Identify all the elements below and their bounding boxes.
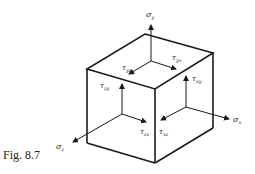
tau-yx-arrow <box>151 61 176 69</box>
tau-yz-arrow <box>129 61 151 74</box>
label-sigma-x: σx <box>233 115 241 125</box>
label-tau-xy: τxy <box>192 75 202 85</box>
tau-xz-arrow <box>161 107 186 120</box>
label-sigma-y: σy <box>146 10 154 21</box>
sigma-z-arrow <box>73 114 122 142</box>
label-tau-zy: τzy <box>100 82 110 92</box>
sigma-x-arrow <box>186 107 229 119</box>
label-sigma-z: σz <box>56 142 64 152</box>
figure-caption: Fig. 8.7 <box>3 148 40 163</box>
label-tau-yx: τyx <box>172 54 182 64</box>
label-tau-xz: τxz <box>159 128 169 137</box>
tau-zx-arrow <box>122 114 146 122</box>
label-tau-zx: τzx <box>140 128 150 137</box>
cube-outline <box>87 34 213 163</box>
label-tau-yz: τyz <box>122 64 132 74</box>
